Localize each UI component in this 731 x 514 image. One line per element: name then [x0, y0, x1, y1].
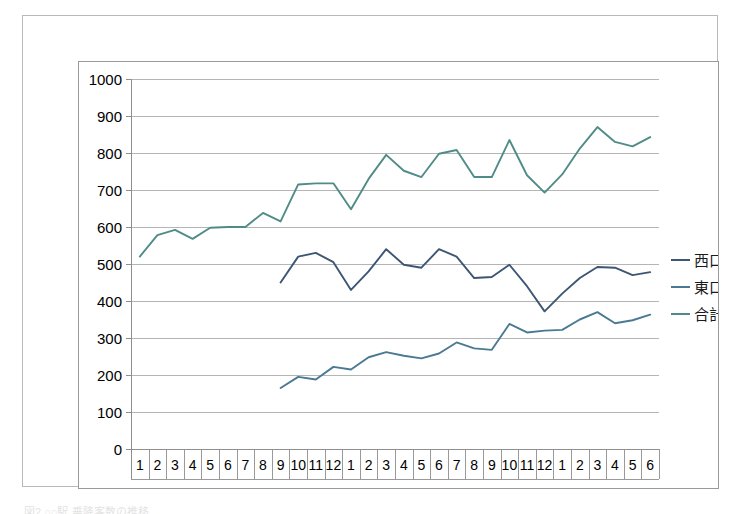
y-axis-label-900: 900	[97, 108, 122, 125]
x-axis-label-29: 5	[629, 457, 637, 473]
data-series-group	[140, 127, 650, 388]
x-axis-label-24: 12	[537, 457, 553, 473]
x-axis-label-8: 8	[259, 457, 267, 473]
x-axis-label-11: 11	[309, 457, 324, 473]
series-line-合計	[140, 127, 650, 257]
x-axis-label-14: 2	[365, 457, 373, 473]
x-axis-label-5: 5	[206, 457, 214, 473]
x-axis-label-12: 12	[326, 457, 342, 473]
chart-legend: 西口東口合計	[671, 252, 718, 323]
series-line-東口	[281, 312, 651, 388]
x-axis-label-16: 4	[400, 457, 408, 473]
x-axis-label-25: 1	[558, 457, 566, 473]
y-axis-label-400: 400	[97, 293, 122, 310]
x-axis-label-28: 4	[611, 457, 619, 473]
y-axis-label-800: 800	[97, 145, 122, 162]
y-axis-tick-labels: 01002003004005006007008009001000	[89, 71, 122, 458]
chart-container: 01002003004005006007008009001000 1234567…	[78, 61, 719, 489]
legend-label-西口: 西口	[694, 252, 718, 269]
x-axis-label-19: 7	[453, 457, 461, 473]
x-axis-label-3: 3	[171, 457, 179, 473]
y-axis-label-100: 100	[97, 404, 122, 421]
x-axis-label-27: 3	[594, 457, 602, 473]
y-tick-marks-group	[126, 80, 131, 450]
y-axis-label-200: 200	[97, 367, 122, 384]
x-axis-label-20: 8	[470, 457, 478, 473]
x-axis-label-23: 11	[520, 457, 535, 473]
legend-label-合計: 合計	[694, 306, 718, 323]
y-axis-label-0: 0	[114, 441, 122, 458]
y-axis-label-600: 600	[97, 219, 122, 236]
line-chart: 01002003004005006007008009001000 1234567…	[79, 62, 718, 488]
x-axis-label-9: 9	[277, 457, 285, 473]
screenshot-root: 01002003004005006007008009001000 1234567…	[0, 0, 731, 514]
x-axis-label-1: 1	[136, 457, 144, 473]
x-axis-label-21: 9	[488, 457, 496, 473]
x-axis-label-18: 6	[435, 457, 443, 473]
scanned-page-frame: 01002003004005006007008009001000 1234567…	[22, 15, 718, 487]
x-axis-label-7: 7	[242, 457, 250, 473]
legend-label-東口: 東口	[694, 279, 718, 296]
x-axis-label-30: 6	[646, 457, 654, 473]
series-line-西口	[281, 249, 651, 311]
x-axis-label-10: 10	[290, 457, 306, 473]
gridlines-group	[131, 80, 659, 450]
y-axis-label-300: 300	[97, 330, 122, 347]
x-axis-label-2: 2	[154, 457, 162, 473]
y-axis-label-700: 700	[97, 182, 122, 199]
x-axis-label-17: 5	[418, 457, 426, 473]
x-axis-label-15: 3	[382, 457, 390, 473]
x-axis-label-13: 1	[347, 457, 355, 473]
x-axis-label-4: 4	[189, 457, 197, 473]
y-axis-label-1000: 1000	[89, 71, 122, 88]
x-axis-label-22: 10	[502, 457, 518, 473]
page-caption-cutoff: 図2 ○○駅 乗降客数の推移	[24, 503, 344, 514]
y-axis-label-500: 500	[97, 256, 122, 273]
x-axis-label-6: 6	[224, 457, 232, 473]
x-axis-label-26: 2	[576, 457, 584, 473]
